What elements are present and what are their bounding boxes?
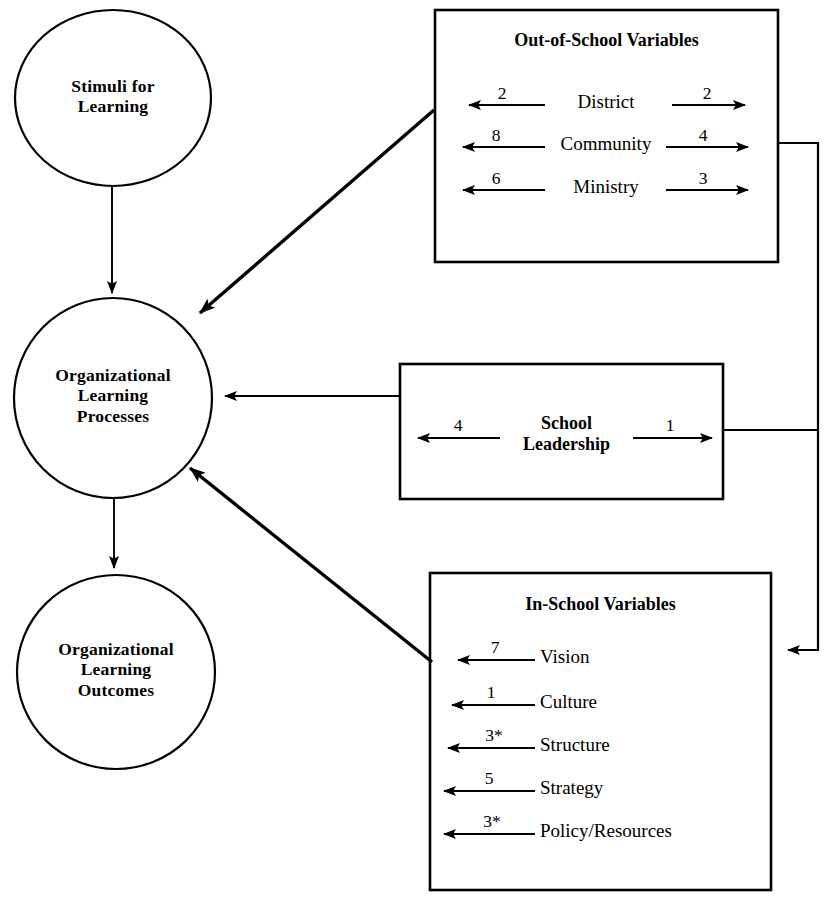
box-title-out-of-school-variables: Out-of-School Variables <box>435 30 778 51</box>
box-title-school-leadership: School Leadership <box>501 413 632 455</box>
circle-label-organizational-learning-outcomes: Organizational Learning Outcomes <box>16 639 216 700</box>
row-value-school-leadership-left: 4 <box>433 415 483 435</box>
row-value-school-leadership-right: 1 <box>645 415 695 435</box>
row-value-district-right: 2 <box>682 83 732 103</box>
row-value-ministry-left: 6 <box>471 168 521 188</box>
circle-label-organizational-learning-processes: Organizational Learning Processes <box>13 365 213 426</box>
box-title-in-school-variables: In-School Variables <box>430 594 771 615</box>
row-value-community-right: 4 <box>678 125 728 145</box>
row-label-district: District <box>545 91 667 113</box>
row-label-community: Community <box>545 133 667 155</box>
row-label-ministry: Ministry <box>545 176 667 198</box>
arrow-out-of-school-to-processes <box>200 110 434 313</box>
arrow-in-school-to-processes <box>190 468 432 662</box>
organizational-learning-diagram: Stimuli for Learning Organizational Lear… <box>0 0 833 906</box>
circle-label-stimuli-for-learning: Stimuli for Learning <box>13 76 213 117</box>
row-label-vision: Vision <box>540 646 760 668</box>
row-value-structure: 3* <box>466 725 522 745</box>
row-value-culture: 1 <box>466 682 516 702</box>
row-value-community-left: 8 <box>471 125 521 145</box>
row-value-strategy: 5 <box>464 768 514 788</box>
connector-out-of-school-to-in-school <box>778 143 818 650</box>
row-label-policy-resources: Policy/Resources <box>540 820 780 842</box>
row-value-vision: 7 <box>470 637 520 657</box>
row-label-structure: Structure <box>540 734 760 756</box>
row-label-strategy: Strategy <box>540 777 760 799</box>
row-value-policy-resources: 3* <box>464 811 520 831</box>
row-value-ministry-right: 3 <box>678 168 728 188</box>
row-label-culture: Culture <box>540 691 760 713</box>
row-value-district-left: 2 <box>477 83 527 103</box>
